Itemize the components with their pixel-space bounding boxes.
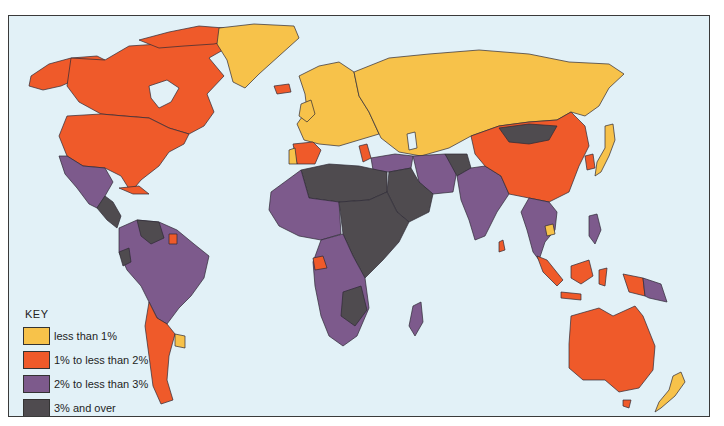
region-sri-lanka <box>499 240 505 252</box>
region-north-africa <box>301 164 387 202</box>
map-legend: KEY less than 1% 1% to less than 2% 2% t… <box>23 308 193 417</box>
region-java <box>561 292 581 300</box>
legend-item-3-and-over: 3% and over <box>23 397 193 417</box>
region-madagascar <box>409 302 423 336</box>
region-borneo <box>571 260 593 284</box>
legend-label: 3% and over <box>54 402 116 414</box>
region-greece <box>359 144 371 162</box>
legend-label: 2% to less than 3% <box>54 378 148 390</box>
region-tasmania <box>623 400 631 408</box>
region-caspian-sea <box>407 132 417 150</box>
legend-title: KEY <box>25 308 193 320</box>
region-guyana <box>169 234 177 244</box>
region-sumatra <box>537 256 563 286</box>
region-papua-new-guinea <box>643 278 667 302</box>
region-cuba <box>119 186 149 194</box>
region-korea <box>585 154 595 170</box>
region-philippines <box>589 214 601 244</box>
legend-item-less-than-1: less than 1% <box>23 325 193 347</box>
map-frame: KEY less than 1% 1% to less than 2% 2% t… <box>8 15 710 417</box>
legend-swatch-orange <box>23 351 50 369</box>
legend-swatch-dark-gray <box>23 399 50 417</box>
region-spain <box>293 142 321 164</box>
region-cambodia <box>545 224 555 236</box>
legend-label: 1% to less than 2% <box>54 354 148 366</box>
legend-item-1-to-2: 1% to less than 2% <box>23 349 193 371</box>
legend-label: less than 1% <box>54 330 117 342</box>
legend-swatch-purple <box>23 375 50 393</box>
region-australia <box>569 306 655 392</box>
legend-item-2-to-3: 2% to less than 3% <box>23 373 193 395</box>
region-new-zealand <box>655 372 685 412</box>
region-irian-jaya <box>623 274 645 296</box>
legend-swatch-yellow <box>23 327 50 345</box>
region-greenland <box>217 24 299 88</box>
region-sulawesi <box>599 268 607 286</box>
region-iceland <box>274 84 291 94</box>
region-japan <box>595 124 615 176</box>
